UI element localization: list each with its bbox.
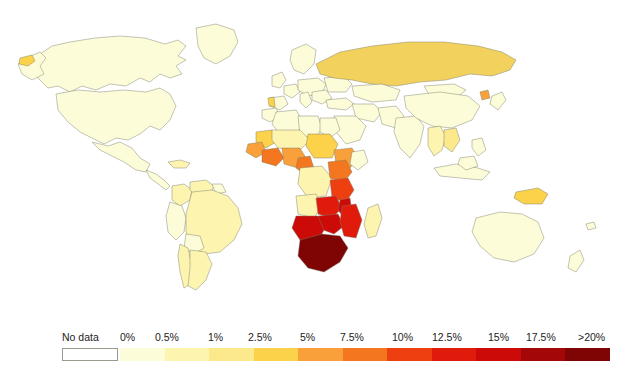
choropleth-figure: No data 0% 0.5% 1% 2.5% 5% 7.5% 10% 12.5… [0, 0, 628, 388]
legend-swatch-7 [432, 348, 477, 361]
country-madagascar [364, 204, 382, 238]
legend-tick-9: 17.5% [526, 330, 556, 344]
region-north-america [18, 24, 238, 190]
country-portugal [268, 97, 275, 107]
country-kazakhstan [352, 84, 400, 102]
island-fiji [586, 222, 596, 230]
legend-tick-labels: No data 0% 0.5% 1% 2.5% 5% 7.5% 10% 12.5… [0, 330, 628, 347]
country-russia [316, 42, 516, 86]
country-myanmar-thailand [428, 126, 446, 156]
country-usa [56, 88, 176, 144]
country-south-africa [298, 234, 348, 272]
country-vietnam-cambodia [444, 128, 460, 152]
country-philippines [472, 138, 486, 156]
country-canada [34, 36, 186, 92]
country-india [394, 116, 424, 158]
country-argentina [188, 250, 212, 290]
country-papua-new-guinea [514, 188, 548, 204]
country-drc [298, 166, 332, 198]
region-middle-east [326, 98, 404, 144]
country-japan [490, 92, 506, 110]
legend-swatch-0 [120, 348, 165, 361]
world-map-svg [0, 0, 628, 322]
legend-tick-8: 15% [488, 330, 509, 344]
legend-swatch-8 [476, 348, 521, 361]
legend-swatch-10 [565, 348, 610, 361]
region-oceania [472, 188, 596, 272]
legend-no-data-swatch [62, 348, 118, 361]
world-map [0, 0, 628, 322]
legend-swatch-6 [387, 348, 432, 361]
country-greenland [196, 24, 238, 64]
legend-tick-6: 10% [392, 330, 413, 344]
country-scandinavia [290, 44, 316, 74]
legend-tick-5: 7.5% [340, 330, 364, 344]
region-south-america [166, 180, 242, 290]
country-turkey [326, 98, 354, 110]
region-caribbean [168, 160, 190, 168]
legend-tick-2: 1% [208, 330, 223, 344]
country-mexico [92, 142, 150, 172]
legend-swatch-1 [165, 348, 210, 361]
legend-tick-4: 5% [300, 330, 315, 344]
country-uk-ireland [272, 72, 286, 88]
legend-tick-10: >20% [578, 330, 605, 344]
country-new-zealand [568, 250, 584, 272]
legend-color-scale [120, 348, 610, 361]
legend-tick-7: 12.5% [432, 330, 462, 344]
legend-swatch-3 [254, 348, 299, 361]
country-australia [472, 212, 544, 262]
legend-tick-1: 0.5% [155, 330, 179, 344]
legend-swatch-2 [209, 348, 254, 361]
country-mozambique [340, 204, 362, 238]
legend-tick-0: 0% [120, 330, 135, 344]
region-central-america [146, 170, 170, 190]
legend-no-data-label: No data [62, 330, 99, 344]
legend-tick-3: 2.5% [248, 330, 272, 344]
legend: No data 0% 0.5% 1% 2.5% 5% 7.5% 10% 12.5… [0, 330, 628, 374]
country-chad-sudan [306, 134, 338, 158]
country-ecuador-peru [166, 202, 186, 240]
legend-swatch-9 [521, 348, 566, 361]
country-somalia [350, 150, 368, 170]
legend-swatch-4 [298, 348, 343, 361]
country-korea-marker [480, 90, 490, 100]
country-france [284, 84, 300, 98]
legend-swatch-5 [343, 348, 388, 361]
region-asia [394, 90, 506, 180]
country-cote-divoire-ghana [262, 148, 284, 166]
